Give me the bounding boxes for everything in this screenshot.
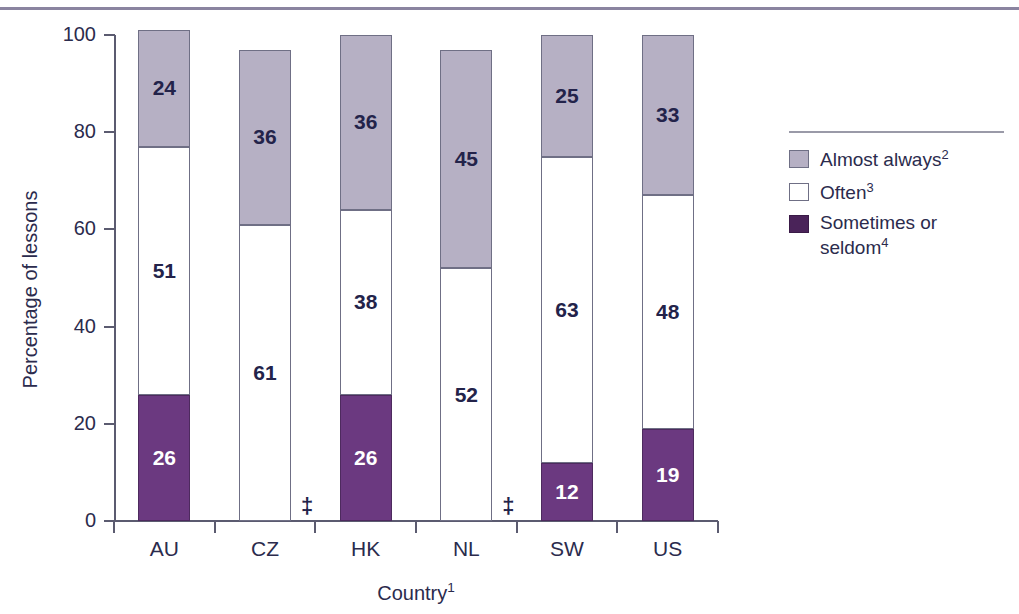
y-tick-label: 80 [24,120,96,143]
x-axis-title: Country1 [114,580,718,605]
legend-footnote: 4 [881,235,888,250]
bar-sw[interactable]: 126325 [541,35,593,521]
legend-label: Almost always2 [820,147,949,172]
y-tick-label: 20 [24,412,96,435]
bar-cz[interactable]: 6136 [239,35,291,521]
bar-value-label: 24 [153,76,176,100]
bar-segment-us-often[interactable]: 48 [642,195,694,428]
x-axis-label-hk: HK [316,537,416,561]
bar-segment-hk-almost[interactable]: 36 [340,35,392,210]
almost-always-swatch [789,150,809,168]
y-tick-mark [104,326,115,328]
bar-segment-nl-often[interactable]: 52 [440,268,492,521]
x-tick-mark [616,521,618,533]
legend-label: Often3 [820,180,874,205]
bar-nl[interactable]: 5245 [440,35,492,521]
suppressed-data-marker-cz: ‡ [301,495,313,517]
bar-segment-hk-some[interactable]: 26 [340,395,392,521]
bar-segment-cz-often[interactable]: 61 [239,225,291,521]
legend-item-sometimes-or-seldom[interactable]: Sometimes or seldom4 [789,212,1004,259]
bar-segment-sw-almost[interactable]: 25 [541,35,593,157]
bar-value-label: 33 [656,103,679,127]
bar-value-label: 51 [153,259,176,283]
legend-top-rule [789,131,1004,133]
x-tick-mark [717,521,719,533]
bar-segment-au-often[interactable]: 51 [138,147,190,395]
bar-value-label: 26 [354,446,377,470]
y-tick-mark [104,228,115,230]
bar-segment-us-almost[interactable]: 33 [642,35,694,195]
sometimes-or-seldom-swatch [789,215,809,233]
bar-value-label: 12 [555,480,578,504]
x-tick-mark [415,521,417,533]
bar-segment-us-some[interactable]: 19 [642,429,694,521]
legend-label: Sometimes or seldom4 [820,212,1004,259]
bar-value-label: 45 [455,147,478,171]
legend-item-often[interactable]: Often3 [789,180,1004,205]
bar-value-label: 26 [153,446,176,470]
bar-value-label: 36 [253,125,276,149]
x-axis-label-au: AU [114,537,214,561]
y-tick-label: 100 [24,23,96,46]
bar-hk[interactable]: 263836 [340,35,392,521]
y-tick-label: 0 [24,509,96,532]
x-axis-label-nl: NL [416,537,516,561]
legend-footnote: 3 [866,180,873,195]
y-tick-mark [104,131,115,133]
x-tick-mark [314,521,316,533]
bar-value-label: 63 [555,298,578,322]
bar-value-label: 38 [354,290,377,314]
bar-segment-au-some[interactable]: 26 [138,395,190,521]
legend-items: Almost always2Often3Sometimes or seldom4 [789,147,1004,260]
x-axis-label-sw: SW [517,537,617,561]
bar-segment-au-almost[interactable]: 24 [138,30,190,147]
bar-value-label: 25 [555,84,578,108]
bar-segment-hk-often[interactable]: 38 [340,210,392,395]
bar-value-label: 36 [354,110,377,134]
legend-item-almost-always[interactable]: Almost always2 [789,147,1004,172]
x-tick-mark [516,521,518,533]
x-axis-title-text: Country [377,582,447,604]
y-tick-label: 40 [24,315,96,338]
bar-us[interactable]: 194833 [642,35,694,521]
y-tick-mark [104,423,115,425]
bar-au[interactable]: 265124 [138,35,190,521]
bar-value-label: 52 [455,383,478,407]
x-axis-label-cz: CZ [215,537,315,561]
y-tick-mark [104,34,115,36]
bar-value-label: 48 [656,300,679,324]
x-axis-title-footnote: 1 [447,580,455,595]
x-axis-label-us: US [618,537,718,561]
x-tick-mark [214,521,216,533]
bar-value-label: 61 [253,361,276,385]
y-axis-line [114,35,116,522]
y-tick-label: 60 [24,217,96,240]
stacked-bar-chart: Percentage of lessons 020406080100 26512… [0,0,760,614]
legend-footnote: 2 [941,147,948,162]
bar-segment-nl-almost[interactable]: 45 [440,50,492,269]
bar-segment-cz-almost[interactable]: 36 [239,50,291,225]
bar-value-label: 19 [656,463,679,487]
x-tick-mark [113,521,115,533]
bar-segment-sw-often[interactable]: 63 [541,157,593,463]
suppressed-data-marker-nl: ‡ [502,495,514,517]
chart-legend: Almost always2Often3Sometimes or seldom4 [789,131,1004,268]
often-swatch [789,183,809,201]
bar-segment-sw-some[interactable]: 12 [541,463,593,521]
